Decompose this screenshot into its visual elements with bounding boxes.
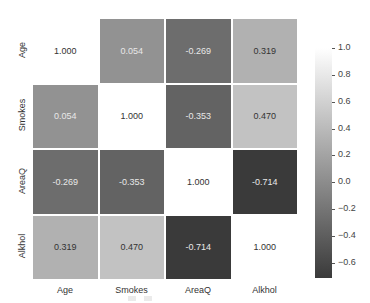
- heatmap-cell: 0.470: [100, 216, 165, 280]
- colorbar-tick-mark: [332, 129, 335, 130]
- colorbar-tick-mark: [332, 155, 335, 156]
- colorbar-tick-label: 0.6: [338, 96, 351, 106]
- colorbar-tick-label: 0.0: [338, 176, 351, 186]
- colorbar-tick-mark: [332, 182, 335, 183]
- heatmap-cell: 1.000: [33, 19, 98, 83]
- heatmap-cell: -0.714: [166, 216, 231, 280]
- colorbar-tick-label: 1.0: [338, 42, 351, 52]
- y-axis-label: Smokes: [17, 85, 27, 145]
- colorbar-tick-mark: [332, 75, 335, 76]
- colorbar: [315, 48, 332, 278]
- heatmap-cell: 0.054: [100, 19, 165, 83]
- heatmap-cell: 0.319: [33, 216, 98, 280]
- colorbar-tick-label: −0.4: [338, 230, 356, 240]
- heatmap-cell: 0.054: [33, 85, 98, 149]
- x-axis-label: Smokes: [99, 285, 165, 295]
- y-axis-label: AreaQ: [17, 151, 27, 211]
- heatmap-cell: 1.000: [166, 150, 231, 214]
- heatmap-cell: 0.319: [233, 19, 298, 83]
- colorbar-tick-label: 0.2: [338, 149, 351, 159]
- colorbar-tick-label: 0.4: [338, 123, 351, 133]
- colorbar-tick-label: 0.8: [338, 69, 351, 79]
- colorbar-tick-label: −0.2: [338, 203, 356, 213]
- y-axis-label: Age: [17, 20, 27, 80]
- y-axis-label: Alkhol: [17, 216, 27, 276]
- heatmap-cell: -0.269: [33, 150, 98, 214]
- heatmap-cell: 1.000: [233, 216, 298, 280]
- colorbar-tick-label: −0.6: [338, 257, 356, 267]
- colorbar-tick-mark: [332, 209, 335, 210]
- heatmap-cell: -0.714: [233, 150, 298, 214]
- heatmap-cell: -0.269: [166, 19, 231, 83]
- colorbar-tick-mark: [332, 263, 335, 264]
- x-axis-label: AreaQ: [165, 285, 231, 295]
- heatmap-cell: 0.470: [233, 85, 298, 149]
- heatmap-cell: -0.353: [100, 150, 165, 214]
- heatmap-cell: -0.353: [166, 85, 231, 149]
- colorbar-tick-mark: [332, 102, 335, 103]
- correlation-heatmap: 1.0000.054-0.2690.3190.0541.000-0.3530.4…: [0, 0, 370, 303]
- colorbar-tick-mark: [332, 236, 335, 237]
- heatmap-cell: 1.000: [100, 85, 165, 149]
- x-axis-label: Age: [32, 285, 98, 295]
- colorbar-tick-mark: [332, 48, 335, 49]
- cropped-caption-fragment: [128, 296, 168, 301]
- x-axis-label: Alkhol: [232, 285, 298, 295]
